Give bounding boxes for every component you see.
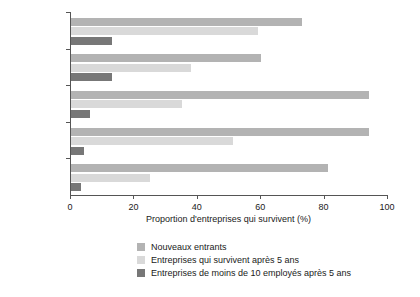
bar	[71, 164, 328, 172]
legend-swatch	[137, 243, 145, 251]
x-tick-label: 40	[192, 202, 202, 212]
x-tick-label: 80	[319, 202, 329, 212]
bar	[71, 54, 261, 62]
bar-group: Moldavie	[71, 85, 387, 122]
x-axis-line	[70, 195, 387, 196]
x-tick-label: 100	[379, 202, 394, 212]
x-tick-mark	[197, 195, 198, 199]
y-tick-mark	[66, 85, 70, 86]
bar-group: Côte d'Ivoire	[71, 158, 387, 195]
bar	[71, 137, 233, 145]
bar	[71, 73, 112, 81]
x-tick-mark	[324, 195, 325, 199]
plot-area: 020406080100 VietnamAfrique du SudMoldav…	[70, 12, 387, 195]
y-tick-mark	[66, 122, 70, 123]
bar-group: Afrique du Sud	[71, 49, 387, 86]
bar-group: Vietnam	[71, 12, 387, 49]
x-tick-mark	[260, 195, 261, 199]
x-tick-label: 60	[255, 202, 265, 212]
x-tick-label: 0	[67, 202, 72, 212]
x-tick-mark	[70, 195, 71, 199]
bar-group: Kosovo	[71, 122, 387, 159]
legend-label: Nouveaux entrants	[151, 242, 227, 252]
x-tick-mark	[387, 195, 388, 199]
bar	[71, 183, 81, 191]
chart-legend: Nouveaux entrantsEntreprises qui survive…	[137, 240, 351, 279]
legend-label: Entreprises qui survivent après 5 ans	[151, 255, 299, 265]
bar	[71, 174, 150, 182]
legend-item: Nouveaux entrants	[137, 240, 351, 253]
legend-item: Entreprises de moins de 10 employés aprè…	[137, 266, 351, 279]
legend-label: Entreprises de moins de 10 employés aprè…	[151, 268, 351, 278]
bar	[71, 91, 369, 99]
y-tick-mark	[66, 158, 70, 159]
legend-item: Entreprises qui survivent après 5 ans	[137, 253, 351, 266]
x-axis-title: Proportion d'entreprises qui survivent (…	[70, 214, 387, 224]
bar	[71, 100, 182, 108]
bar	[71, 18, 302, 26]
y-tick-mark	[66, 49, 70, 50]
y-tick-mark	[66, 12, 70, 13]
bar	[71, 110, 90, 118]
bar	[71, 128, 369, 136]
bar	[71, 147, 84, 155]
legend-swatch	[137, 269, 145, 277]
bar	[71, 64, 191, 72]
x-tick-label: 20	[128, 202, 138, 212]
bar	[71, 37, 112, 45]
legend-swatch	[137, 256, 145, 264]
x-tick-mark	[133, 195, 134, 199]
bar-chart-figure: 020406080100 VietnamAfrique du SudMoldav…	[0, 0, 420, 297]
bar	[71, 27, 258, 35]
